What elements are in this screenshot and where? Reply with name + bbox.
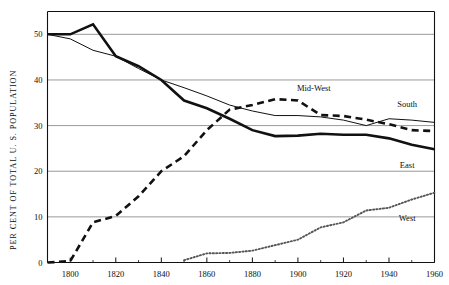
series-annotations: Mid-WestSouthEastWest <box>297 83 418 223</box>
x-tick-label-1960: 1960 <box>426 269 443 279</box>
x-tick-label-1860: 1860 <box>198 269 215 279</box>
data-series-group <box>48 24 435 262</box>
y-tick-label-30: 30 <box>34 121 43 131</box>
series-label-mid-west: Mid-West <box>297 83 331 93</box>
y-tick-label-40: 40 <box>34 75 43 85</box>
x-tick-label-1820: 1820 <box>107 269 124 279</box>
x-axis-ticks <box>70 258 434 263</box>
y-tick-label-0: 0 <box>38 258 42 268</box>
x-tick-label-1800: 1800 <box>62 269 79 279</box>
x-tick-label-1900: 1900 <box>289 269 306 279</box>
y-tick-label-50: 50 <box>34 29 43 39</box>
series-line-east <box>48 24 435 149</box>
x-tick-label-1880: 1880 <box>244 269 261 279</box>
series-label-east: East <box>400 160 415 170</box>
series-label-west: West <box>399 213 416 223</box>
population-share-line-chart: 01020304050 1800182018401860188019001920… <box>0 0 449 285</box>
series-line-west <box>184 193 434 261</box>
gridlines <box>48 34 435 262</box>
x-tick-label-1840: 1840 <box>153 269 170 279</box>
y-axis-tick-labels: 01020304050 <box>34 29 43 267</box>
chart-container: 01020304050 1800182018401860188019001920… <box>0 0 449 285</box>
y-tick-label-20: 20 <box>34 166 43 176</box>
series-label-south: South <box>397 99 418 109</box>
x-axis-tick-labels: 180018201840186018801900192019401960 <box>62 269 443 279</box>
y-tick-label-10: 10 <box>34 212 43 222</box>
x-tick-label-1940: 1940 <box>380 269 397 279</box>
y-axis-title: PER CENT OF TOTAL U. S. POPULATION <box>9 70 18 250</box>
x-tick-label-1920: 1920 <box>335 269 352 279</box>
